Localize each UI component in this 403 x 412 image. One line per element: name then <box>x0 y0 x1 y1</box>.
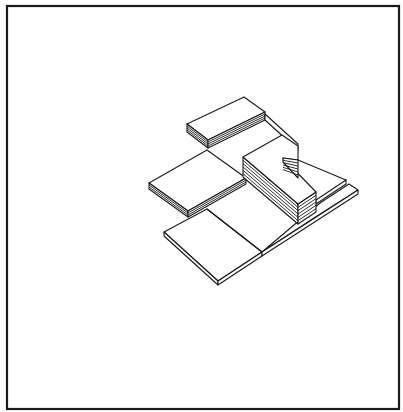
big-slab <box>149 150 246 217</box>
back-top-block <box>187 97 265 148</box>
right-upper-step-ledge <box>298 160 346 180</box>
drawing-canvas <box>0 0 403 412</box>
big-slab-top <box>149 150 246 211</box>
l-block <box>243 135 316 224</box>
bottom-slab <box>164 209 262 285</box>
